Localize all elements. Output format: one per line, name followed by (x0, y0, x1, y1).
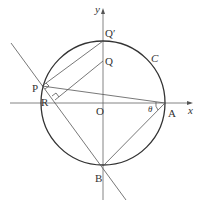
right-angle-mark-r (52, 93, 59, 97)
origin-label: O (96, 105, 104, 117)
point-a-label: A (168, 107, 176, 119)
segment-pa (42, 86, 165, 103)
point-r-label: R (41, 96, 49, 108)
y-axis-arrow-icon (101, 8, 105, 14)
point-p-label: P (32, 82, 38, 94)
circle-c-label: C (151, 52, 159, 64)
y-axis-label: y (94, 3, 100, 15)
segment-rq (55, 61, 103, 100)
segment-pq-prime (42, 41, 103, 86)
angle-theta-label: θ (148, 104, 153, 114)
point-b-label: B (95, 172, 102, 184)
point-q-prime-label: Q′ (105, 27, 115, 39)
geometry-diagram: y x O Q′ Q C P R A B θ (0, 0, 199, 207)
right-angle-mark-p (45, 83, 49, 89)
point-q-label: Q (105, 55, 113, 67)
x-axis-label: x (187, 104, 193, 116)
